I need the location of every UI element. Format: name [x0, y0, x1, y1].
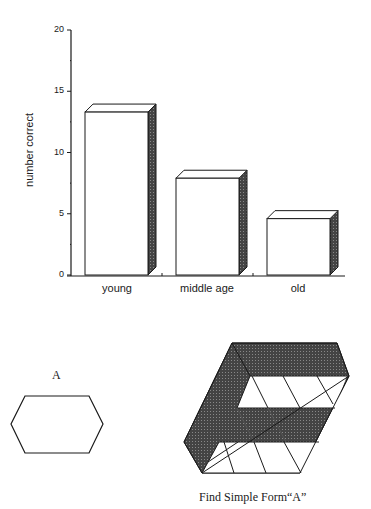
bar-chart [0, 0, 371, 509]
y-tick-label: 10 [54, 147, 64, 157]
y-tick-label: 5 [59, 208, 64, 218]
embedded-figure-puzzle [184, 343, 349, 473]
bar-old [267, 211, 338, 275]
figure-page: number correct youngmiddle ageold 051015… [0, 0, 371, 509]
y-tick-label: 0 [59, 269, 64, 279]
y-tick-label: 15 [54, 85, 64, 95]
y-tick-label: 20 [54, 24, 64, 34]
x-tick-label: middle age [180, 282, 234, 294]
x-tick-label: young [102, 282, 132, 294]
bar-young [85, 104, 156, 275]
figure-caption: Find Simple Form“A” [199, 490, 306, 505]
bar-middle-age [176, 170, 247, 275]
simple-form-label: A [52, 368, 61, 383]
y-axis-label: number correct [23, 113, 35, 187]
simple-form-a-hexagon [11, 396, 103, 453]
chart-bars [85, 104, 338, 275]
x-tick-label: old [291, 282, 306, 294]
